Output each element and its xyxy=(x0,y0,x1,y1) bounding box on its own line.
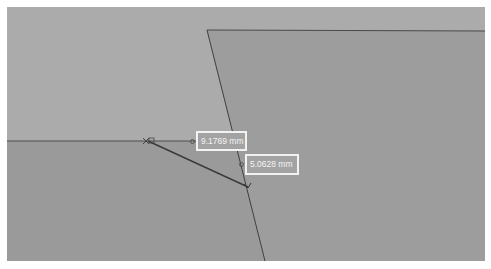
measurement-anchor-icon xyxy=(239,162,244,167)
measurement-value: 9.1769 mm xyxy=(201,136,244,146)
measurement-anchor-icon xyxy=(190,139,195,144)
measurement-label-length[interactable]: 9.1769 mm xyxy=(196,131,247,151)
measurement-label-distance[interactable]: 5.0628 mm xyxy=(245,154,299,175)
measurement-value: 5.0628 mm xyxy=(250,159,293,169)
cad-viewport[interactable]: 9.1769 mm 5.0628 mm xyxy=(7,7,485,261)
